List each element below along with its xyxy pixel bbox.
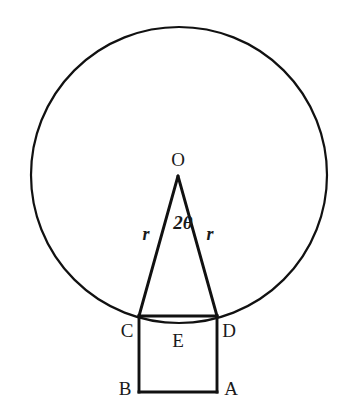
radius-label-right: r bbox=[206, 225, 213, 243]
apex-angle-label: 2θ bbox=[173, 213, 192, 232]
geometry-diagram: O C D E B A r 2θ r bbox=[0, 0, 346, 418]
vertex-label-a: A bbox=[224, 379, 238, 398]
triangle-leg-oc bbox=[139, 176, 178, 316]
diagram-canvas bbox=[0, 0, 346, 418]
vertex-label-e: E bbox=[172, 331, 184, 350]
triangle-leg-od bbox=[178, 176, 217, 316]
radius-label-left: r bbox=[142, 225, 149, 243]
vertex-label-b: B bbox=[119, 379, 132, 398]
vertex-label-c: C bbox=[121, 321, 134, 340]
vertex-label-o: O bbox=[171, 150, 185, 169]
vertex-label-d: D bbox=[222, 321, 236, 340]
